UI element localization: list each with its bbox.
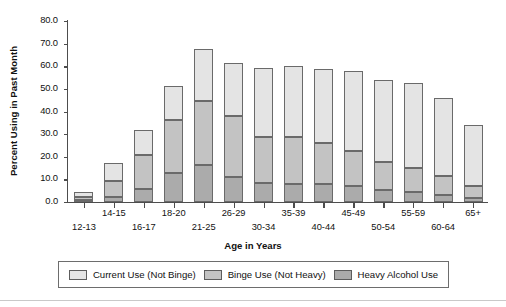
chart-legend: Current Use (Not Binge)Binge Use (Not He… — [58, 261, 449, 288]
y-axis-title: Percent Using in Past Month — [4, 16, 22, 206]
bar-12-13 — [74, 21, 93, 202]
bar-segment-heavy — [164, 173, 183, 202]
x-axis-tick-label: 55-59 — [401, 208, 425, 218]
legend-swatch-heavy — [334, 270, 352, 280]
x-axis-tick-mark — [84, 203, 85, 208]
bar-segment-current — [134, 130, 153, 154]
legend-item-binge[interactable]: Binge Use (Not Heavy) — [204, 269, 326, 280]
bar-segment-heavy — [434, 195, 453, 202]
x-axis-tick-mark — [144, 203, 145, 208]
bar-segment-current — [254, 68, 273, 137]
bar-segment-binge — [284, 137, 303, 184]
bar-14-15 — [104, 21, 123, 202]
x-axis-tick-label: 50-54 — [371, 222, 395, 232]
bar-segment-current — [314, 69, 333, 144]
bar-segment-heavy — [464, 198, 483, 202]
x-axis-tick-label: 21-25 — [192, 222, 216, 232]
x-axis-tick-label: 18-20 — [162, 208, 186, 218]
bar-segment-current — [374, 80, 393, 162]
y-axis-tick-label: 60.0 — [40, 59, 58, 70]
x-axis-title: Age in Years — [0, 240, 506, 251]
x-axis-tick-label: 65+ — [465, 208, 481, 218]
bar-65+ — [464, 21, 483, 202]
x-axis-tick-mark — [204, 203, 205, 208]
x-axis-tick-mark — [264, 203, 265, 208]
bar-segment-heavy — [404, 192, 423, 202]
y-axis-tick-label: 0.0 — [45, 195, 58, 206]
bar-segment-heavy — [374, 190, 393, 202]
bar-segment-binge — [74, 197, 93, 200]
x-axis-tick-mark — [383, 203, 384, 208]
bar-35-39 — [284, 21, 303, 202]
legend-label: Current Use (Not Binge) — [93, 269, 196, 280]
y-axis-tick-mark — [64, 202, 69, 203]
legend-swatch-binge — [204, 270, 222, 280]
bar-40-44 — [314, 21, 333, 202]
y-axis-title-text: Percent Using in Past Month — [8, 46, 19, 176]
y-axis-tick-label: 40.0 — [40, 105, 58, 116]
bar-segment-current — [344, 71, 363, 151]
bar-segment-binge — [464, 186, 483, 198]
legend-label: Binge Use (Not Heavy) — [228, 269, 326, 280]
legend-item-current[interactable]: Current Use (Not Binge) — [69, 269, 196, 280]
bar-segment-current — [74, 192, 93, 196]
x-axis-tick-label: 12-13 — [72, 222, 96, 232]
bar-45-49 — [344, 21, 363, 202]
y-axis-tick-label: 20.0 — [40, 150, 58, 161]
bar-segment-binge — [404, 168, 423, 192]
bar-segment-heavy — [74, 200, 93, 202]
bar-segment-binge — [164, 120, 183, 172]
bar-18-20 — [164, 21, 183, 202]
bar-segment-heavy — [254, 183, 273, 202]
bar-segment-current — [434, 98, 453, 175]
bar-segment-current — [284, 66, 303, 136]
x-axis-tick-label: 35-39 — [282, 208, 306, 218]
x-axis-tick-mark — [323, 203, 324, 208]
bar-segment-heavy — [344, 186, 363, 202]
bar-26-29 — [224, 21, 243, 202]
x-axis-tick-mark — [443, 203, 444, 208]
x-axis-tick-label: 30-34 — [252, 222, 276, 232]
y-axis-tick-label: 50.0 — [40, 82, 58, 93]
x-axis-tick-label: 26-29 — [222, 208, 246, 218]
x-axis-tick-label: 40-44 — [312, 222, 336, 232]
bar-segment-heavy — [224, 177, 243, 202]
bar-segment-binge — [194, 101, 213, 165]
bar-segment-heavy — [284, 184, 303, 202]
x-axis-tick-label: 45-49 — [341, 208, 365, 218]
x-axis-tick-label: 60-64 — [431, 222, 455, 232]
x-axis-tick-label: 16-17 — [132, 222, 156, 232]
y-axis-tick-label: 30.0 — [40, 127, 58, 138]
bar-segment-binge — [254, 137, 273, 183]
bar-segment-binge — [344, 151, 363, 186]
x-axis-tick-label: 14-15 — [102, 208, 126, 218]
chart-figure: Percent Using in Past Month 0.010.020.03… — [0, 0, 506, 307]
bar-segment-heavy — [314, 184, 333, 202]
bar-segment-binge — [314, 143, 333, 183]
bar-segment-current — [194, 49, 213, 101]
bar-16-17 — [134, 21, 153, 202]
footer-divider — [0, 300, 506, 301]
bar-segment-current — [224, 63, 243, 116]
bar-segment-heavy — [104, 197, 123, 202]
y-axis-tick-label: 70.0 — [40, 37, 58, 48]
bar-segment-binge — [104, 181, 123, 197]
bar-50-54 — [374, 21, 393, 202]
bar-segment-current — [104, 163, 123, 181]
bar-55-59 — [404, 21, 423, 202]
legend-label: Heavy Alcohol Use — [358, 269, 439, 280]
bar-21-25 — [194, 21, 213, 202]
bar-segment-binge — [434, 176, 453, 195]
bar-60-64 — [434, 21, 453, 202]
bar-segment-heavy — [194, 165, 213, 202]
bar-segment-current — [164, 86, 183, 120]
x-axis-line — [67, 202, 488, 203]
bar-segment-heavy — [134, 189, 153, 202]
y-axis-tick-label: 10.0 — [40, 172, 58, 183]
y-axis-tick-label: 80.0 — [40, 14, 58, 25]
bar-segment-binge — [224, 116, 243, 177]
legend-swatch-current — [69, 270, 87, 280]
bar-segment-current — [464, 125, 483, 187]
plot-area — [68, 21, 487, 202]
legend-item-heavy[interactable]: Heavy Alcohol Use — [334, 269, 439, 280]
